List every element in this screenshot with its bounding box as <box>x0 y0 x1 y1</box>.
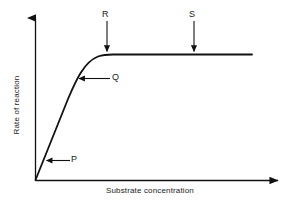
annotation-label-s: S <box>189 9 195 19</box>
y-axis-title: Rate of reaction <box>12 76 21 135</box>
enzyme-kinetics-figure: P Q R S Substrate concentration Rate of … <box>0 0 294 203</box>
reaction-rate-curve <box>36 55 253 181</box>
plot-svg <box>0 0 294 203</box>
annotation-label-r: R <box>102 9 109 19</box>
annotation-label-p: P <box>71 154 77 164</box>
annotation-label-q: Q <box>112 72 119 82</box>
x-axis-title: Substrate concentration <box>106 186 194 195</box>
